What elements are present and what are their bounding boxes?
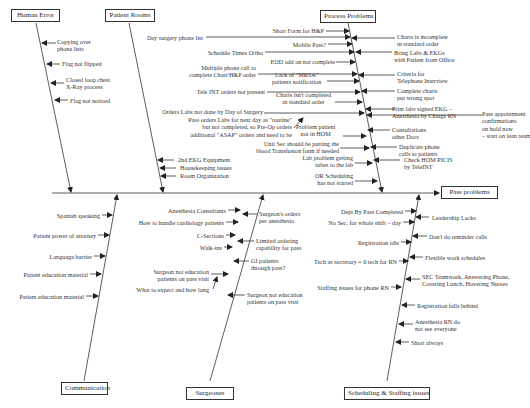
cause-label: Flexible work schedules (425, 254, 485, 261)
cause-label: Consultations other Docs (392, 126, 426, 141)
cause-label: Check HOM PICIS by TeleINT (404, 156, 452, 171)
cause-label: Problem patient not in HOM (296, 123, 335, 138)
cause-label: Flag not flipped (62, 60, 102, 67)
cause-label: Short always (411, 339, 443, 346)
cause-label: Charts isn't completed in standard order (276, 91, 331, 106)
cause-label: Copying over phone lists (57, 38, 91, 53)
cause-label: Bring Labs & EKGs with Patient from Offi… (394, 49, 455, 64)
category-surgeones: Surgeones (186, 387, 234, 400)
cause-label: Orders Labs not done by Day of Surgery (162, 108, 263, 115)
cause-label: Unit Sec should be putting the blood Tra… (256, 140, 339, 155)
cause-label: Staffing issues for phone RN (317, 284, 389, 291)
category-process-problems: Process Problems (320, 10, 376, 23)
cause-label: Anesthesia RN do not see everyone (415, 318, 460, 333)
category-human-error: Human Error (11, 9, 60, 22)
cause-label: Charts is incomplete in standard order (397, 33, 448, 48)
cause-label: Surgeon not education patients on pass v… (247, 291, 303, 306)
cause-label: Housekeeping issues (180, 164, 232, 171)
cause-label: Walk-ins (200, 244, 222, 251)
cause-label: Room Organization (180, 172, 229, 179)
cause-label: Day surgery phone list (147, 34, 203, 41)
cause-label: Tele INT orders not present (197, 88, 265, 95)
cause-label: What to expect and how long (136, 286, 209, 293)
cause-label: Pass orders Labs for next day as "routin… (188, 116, 292, 138)
cause-label: OR Scheduling has not started (315, 172, 353, 187)
cause-label: SEC Teamwork, Answering Phone, Covering … (422, 273, 510, 288)
cause-label: Spanish speaking (57, 212, 100, 219)
cause-label: 2nd EKG Equipment (178, 156, 230, 163)
cause-label: Multiple phone call to complete Chart/H&… (189, 64, 256, 79)
cause-label: Lab problem getting tubes to the lab (302, 154, 353, 169)
bone-communication (84, 195, 117, 381)
cause-label: Surgeon's orders per anesthesia (259, 210, 300, 225)
cause-label: Criteria for Telephone Interview (397, 70, 448, 85)
cause-label: Flag not noticed (70, 97, 110, 104)
cause-label: Patient education material (19, 293, 84, 300)
cause-label: Short Form for H&P (273, 27, 324, 34)
cause-label: Closed loop chest X-Ray process (66, 76, 110, 91)
cause-label: Lack of "MRSA" patients notification (272, 71, 321, 86)
effect-pass-problems: Pass problems (441, 186, 498, 199)
cause-label: Limited ordering capability for pass (256, 237, 301, 252)
cause-label: C-Sections (197, 232, 224, 239)
category-patient-rooms: Patient Rooms (105, 9, 155, 22)
cause-label: Patient power of attorney (33, 232, 96, 239)
cause-label: Leadership Lacks (432, 214, 476, 221)
bone-patient-rooms (129, 23, 163, 192)
cause-label: Surgeon not education patients on pass v… (153, 268, 209, 283)
cause-label: Language barrier (50, 253, 92, 260)
cause-label: GI patients through pass? (251, 257, 285, 272)
cause-label: Schedule Times Ortho (208, 49, 263, 56)
cause-label: Pass appointment confirmations on hold n… (482, 110, 530, 140)
cause-label: No Sec. for whole shift – day (328, 219, 401, 226)
cause-label: Print labs signed EKG – Anesthesia by Ch… (392, 105, 456, 120)
cause-label: Tech as secretary = 0 tech for RN (314, 258, 397, 265)
cause-label: How to handle cardiology patients (139, 219, 224, 226)
category-communication: Communication (61, 382, 108, 395)
cause-label: Complete charts put wrong spot (397, 87, 437, 102)
cause-label: Don't do reminder calls (429, 233, 487, 240)
cause-label: Dept By Pass Completed (341, 208, 403, 215)
cause-label: Registration idle (358, 239, 399, 246)
cause-label: Anesthesia Consultants (168, 207, 226, 214)
category-scheduling-staffing: Scheduling & Staffing issues (344, 387, 430, 400)
cause-label: Mobile Pass? (293, 41, 326, 48)
cause-label: Registration falls behind (417, 302, 478, 309)
cause-label: Patient education material (23, 271, 88, 278)
cause-label: EOD add on not complete (270, 58, 335, 65)
bone-process-problems (348, 23, 382, 192)
